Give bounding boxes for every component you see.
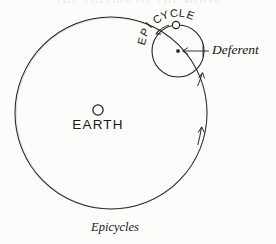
epicycle-label-char: E bbox=[186, 8, 197, 22]
figure-canvas: THE THEORY OF THE MOON bbox=[0, 0, 276, 244]
epicycle-label: EPICYCLE bbox=[0, 0, 276, 244]
epicycle-label-char: C bbox=[169, 7, 178, 20]
